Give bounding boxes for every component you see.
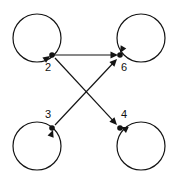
edge-3-to-6 (55, 63, 113, 125)
edge-group (54, 55, 113, 125)
arrowhead-icon (120, 45, 126, 53)
node-dot-2[interactable] (49, 52, 55, 58)
edge-2-to-4 (55, 58, 113, 121)
directed-graph-figure: 2634 (0, 0, 174, 182)
graph-canvas: 2634 (0, 0, 174, 182)
node-dot-6[interactable] (117, 52, 123, 58)
node-dot-3[interactable] (49, 125, 55, 131)
node-label-3: 3 (45, 108, 51, 120)
node-dot-4[interactable] (117, 125, 123, 131)
node-label-6: 6 (121, 61, 127, 73)
node-label-4: 4 (121, 108, 127, 120)
self-loop-group (13, 14, 165, 170)
self-loop-6 (117, 14, 165, 62)
node-label-2: 2 (45, 61, 51, 73)
node-label-group: 2634 (45, 61, 127, 120)
arrowhead-icon (111, 52, 119, 59)
arrowhead-icon (48, 130, 54, 138)
